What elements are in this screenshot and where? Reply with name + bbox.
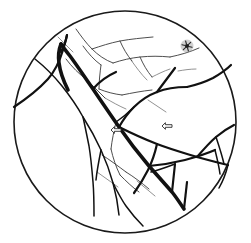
fundus-figure: Retinal fundus vessel tracing <box>0 0 251 243</box>
field-of-view-circle <box>14 11 236 233</box>
asterisk-marker-marker <box>181 40 194 53</box>
fundus-vessel-diagram <box>0 0 251 243</box>
